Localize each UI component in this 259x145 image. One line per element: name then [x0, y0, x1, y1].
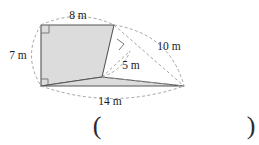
label-slant-ten-meter: 10 m [157, 40, 180, 52]
answer-close-paren: ) [247, 111, 256, 140]
label-bottom-fourteen-meter: 14 m [98, 95, 121, 107]
dashed-line-ten-meter [114, 25, 184, 86]
label-top-eight-meter: 8 m [69, 9, 87, 21]
figure-root: 8 m 7 m 5 m 10 m 14 m ( ) [0, 0, 259, 145]
arc-left-seven-meter [32, 25, 42, 86]
dashed-lines-group [102, 25, 184, 86]
arc-slant-ten-meter [114, 25, 184, 86]
composite-shape-diagram: 8 m 7 m 5 m 10 m 14 m ( ) [0, 0, 259, 145]
shaded-shape-group [41, 25, 184, 86]
answer-open-paren: ( [93, 111, 102, 140]
label-left-seven-meter: 7 m [9, 49, 27, 61]
answer-blank-group: ( ) [93, 111, 256, 140]
label-inner-five-meter: 5 m [122, 59, 140, 71]
right-angle-mark-inner [117, 39, 124, 50]
